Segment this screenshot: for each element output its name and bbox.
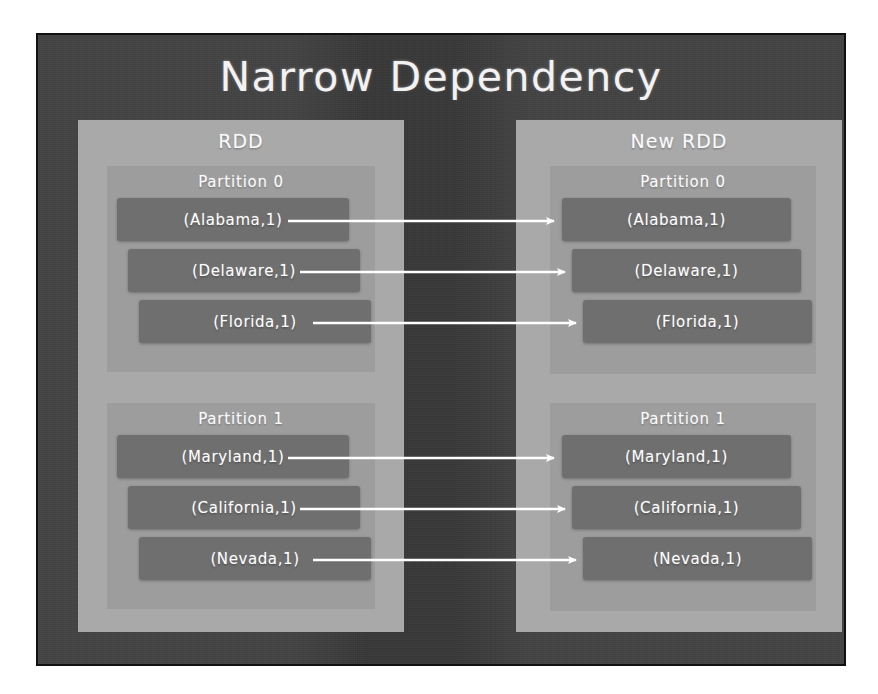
target-partition-0: Partition 0 (Alabama,1) (Delaware,1) (Fl… xyxy=(550,166,816,374)
source-record-california: (California,1) xyxy=(128,486,360,529)
target-partition-0-title: Partition 0 xyxy=(550,173,816,191)
source-record-maryland: (Maryland,1) xyxy=(117,435,349,478)
source-partition-0: Partition 0 (Alabama,1) (Delaware,1) (Fl… xyxy=(107,166,375,372)
source-record-florida: (Florida,1) xyxy=(139,300,371,343)
target-partition-1: Partition 1 (Maryland,1) (California,1) … xyxy=(550,403,816,611)
source-partition-1: Partition 1 (Maryland,1) (California,1) … xyxy=(107,403,375,609)
target-record-maryland: (Maryland,1) xyxy=(562,435,791,478)
slide-canvas: Narrow Dependency RDD Partition 0 (Alaba… xyxy=(36,33,846,666)
target-rdd-title: New RDD xyxy=(516,130,842,152)
source-record-nevada: (Nevada,1) xyxy=(139,537,371,580)
source-partition-1-title: Partition 1 xyxy=(107,410,375,428)
page-title: Narrow Dependency xyxy=(38,53,844,101)
source-record-delaware: (Delaware,1) xyxy=(128,249,360,292)
target-record-delaware: (Delaware,1) xyxy=(572,249,801,292)
source-record-alabama: (Alabama,1) xyxy=(117,198,349,241)
target-record-florida: (Florida,1) xyxy=(583,300,812,343)
target-record-nevada: (Nevada,1) xyxy=(583,537,812,580)
target-partition-1-title: Partition 1 xyxy=(550,410,816,428)
target-record-california: (California,1) xyxy=(572,486,801,529)
source-rdd-panel: RDD Partition 0 (Alabama,1) (Delaware,1)… xyxy=(78,120,404,632)
source-partition-0-title: Partition 0 xyxy=(107,173,375,191)
source-rdd-title: RDD xyxy=(78,130,404,152)
target-rdd-panel: New RDD Partition 0 (Alabama,1) (Delawar… xyxy=(516,120,842,632)
target-record-alabama: (Alabama,1) xyxy=(562,198,791,241)
